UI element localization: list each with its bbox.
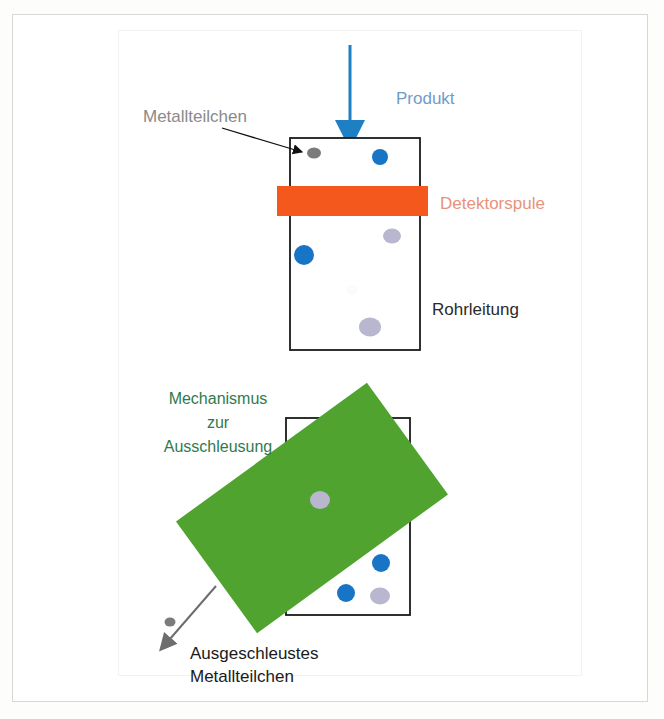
product-particle-blue (372, 554, 390, 572)
metal-particle-on-plate (310, 491, 330, 509)
upper-stage-group: Produkt Metallteilchen Detektorspule Roh… (143, 45, 545, 350)
ejected-metal-particle (165, 618, 176, 627)
product-particle-blue (337, 584, 355, 602)
metal-detection-diagram: Produkt Metallteilchen Detektorspule Roh… (0, 0, 664, 719)
label-mechanism-line1: Mechanismus (169, 390, 268, 407)
label-pipeline: Rohrleitung (432, 300, 519, 319)
label-detector-coil: Detektorspule (440, 194, 545, 213)
label-rejected-line2: Metallteilchen (190, 667, 294, 686)
metal-particle-lavender (383, 229, 401, 244)
metal-particle-lavender (359, 318, 381, 337)
pipeline-upper-rect (290, 138, 420, 350)
ejection-arrow (163, 586, 216, 647)
label-metal-particle: Metallteilchen (143, 107, 247, 126)
product-particle-blue (294, 245, 314, 265)
label-mechanism-line3: Ausschleusung (164, 438, 273, 455)
metal-particle-lavender (370, 588, 390, 605)
figure-root: Produkt Metallteilchen Detektorspule Roh… (0, 0, 664, 719)
product-particle-blue (372, 149, 388, 165)
metal-particle-gray (307, 148, 321, 159)
label-mechanism-line2: zur (207, 414, 230, 431)
label-product: Produkt (396, 89, 455, 108)
product-particle-faint (346, 285, 358, 295)
lower-stage-group: Mechanismus zur Ausschleusung Ausgeschle… (163, 383, 448, 686)
detector-coil-band (277, 186, 428, 216)
label-rejected-line1: Ausgeschleustes (190, 644, 319, 663)
